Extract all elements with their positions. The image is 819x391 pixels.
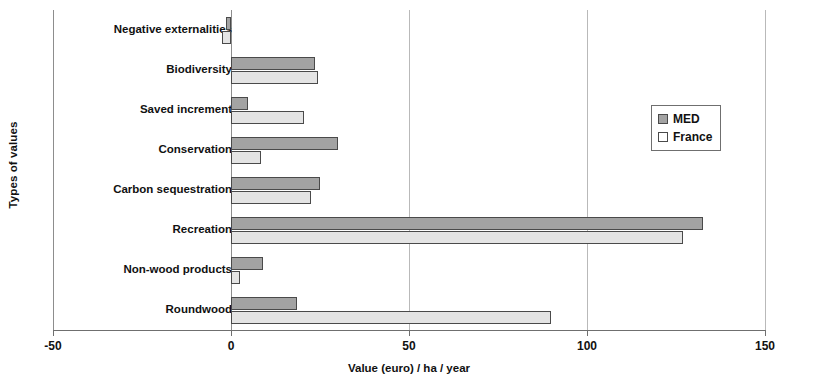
legend-swatch-med-icon bbox=[658, 114, 668, 124]
bar-france-non-wood-products bbox=[231, 271, 240, 284]
bar-med-biodiversity bbox=[231, 57, 315, 70]
x-tick-label-150: 150 bbox=[755, 339, 775, 353]
x-tick-label--50: -50 bbox=[44, 339, 61, 353]
bar-france-carbon-sequestration bbox=[231, 191, 311, 204]
bar-med-carbon-sequestration bbox=[231, 177, 320, 190]
category-label-recreation: Recreation bbox=[173, 224, 232, 236]
y-axis-title-text: Types of values bbox=[7, 122, 19, 209]
category-label-saved-increment: Saved increment bbox=[140, 104, 232, 116]
bar-med-non-wood-products bbox=[231, 257, 263, 270]
tick-mark-0 bbox=[231, 330, 232, 336]
legend-item-france: France bbox=[658, 128, 712, 146]
bar-med-negative-externalities bbox=[226, 17, 231, 30]
bar-france-negative-externalities bbox=[222, 31, 231, 44]
chart-legend: MED France bbox=[651, 105, 721, 151]
bar-med-saved-increment bbox=[231, 97, 248, 110]
gridline-150 bbox=[765, 10, 766, 330]
tick-mark-100 bbox=[587, 330, 588, 336]
category-label-roundwood: Roundwood bbox=[166, 304, 232, 316]
x-axis-title: Value (euro) / ha / year bbox=[53, 362, 765, 374]
y-axis-title: Types of values bbox=[2, 0, 24, 330]
category-label-non-wood-products: Non-wood products bbox=[123, 264, 232, 276]
tick-mark-50 bbox=[409, 330, 410, 336]
category-label-carbon-sequestration: Carbon sequestration bbox=[113, 184, 232, 196]
x-tick-label-50: 50 bbox=[402, 339, 415, 353]
category-label-conservation: Conservation bbox=[159, 144, 233, 156]
tick-mark-150 bbox=[765, 330, 766, 336]
bar-med-roundwood bbox=[231, 297, 297, 310]
bar-med-recreation bbox=[231, 217, 703, 230]
x-tick-label-0: 0 bbox=[228, 339, 235, 353]
bar-france-roundwood bbox=[231, 311, 551, 324]
bar-med-conservation bbox=[231, 137, 338, 150]
legend-item-med: MED bbox=[658, 110, 712, 128]
legend-label-med: MED bbox=[673, 112, 700, 126]
category-label-biodiversity: Biodiversity bbox=[166, 64, 232, 76]
chart-figure: Types of values -50050100150 Negative ex… bbox=[0, 0, 819, 391]
bar-france-biodiversity bbox=[231, 71, 318, 84]
bar-france-recreation bbox=[231, 231, 683, 244]
tick-mark--50 bbox=[53, 330, 54, 336]
category-label-negative-externalities: Negative externalities bbox=[114, 24, 232, 36]
legend-label-france: France bbox=[673, 130, 712, 144]
bar-france-conservation bbox=[231, 151, 261, 164]
gridline-50 bbox=[409, 10, 410, 330]
bar-france-saved-increment bbox=[231, 111, 304, 124]
x-tick-label-100: 100 bbox=[577, 339, 597, 353]
gridline-100 bbox=[587, 10, 588, 330]
legend-swatch-france-icon bbox=[658, 132, 668, 142]
